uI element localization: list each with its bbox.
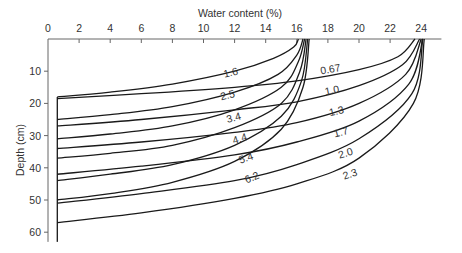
y-tick-label: 50 — [29, 194, 41, 206]
x-tick-label: 14 — [260, 22, 272, 34]
x-tick-label: 6 — [138, 22, 144, 34]
curve-1-6 — [57, 39, 298, 97]
x-tick-label: 12 — [229, 22, 241, 34]
y-tick-label: 40 — [29, 162, 41, 174]
curve-label: 2.3 — [341, 166, 359, 182]
y-tick-label: 20 — [29, 97, 41, 109]
curve-label: 1.3 — [328, 103, 345, 118]
curve-2-5 — [57, 39, 303, 120]
x-tick-label: 0 — [45, 22, 51, 34]
x-tick-label: 24 — [415, 22, 427, 34]
x-tick-label: 18 — [322, 22, 334, 34]
curve-label: 2.0 — [337, 145, 355, 161]
chart-svg: 024681012141618202224102030405060 1.62.5… — [0, 0, 462, 253]
y-tick-label: 10 — [29, 65, 41, 77]
x-tick-label: 22 — [384, 22, 396, 34]
x-tick-label: 8 — [169, 22, 175, 34]
x-tick-label: 10 — [198, 22, 210, 34]
curve-label: 1.0 — [323, 83, 340, 98]
curve-label: 2.5 — [219, 87, 236, 102]
curve-label: 1.6 — [222, 65, 239, 80]
y-tick-label: 30 — [29, 130, 41, 142]
curve-label: 6.2 — [243, 169, 261, 186]
x-tick-label: 20 — [353, 22, 365, 34]
curve-label: 3.4 — [225, 110, 242, 125]
x-tick-label: 2 — [76, 22, 82, 34]
x-tick-label: 4 — [107, 22, 113, 34]
y-tick-label: 60 — [29, 226, 41, 238]
x-axis-title: Water content (%) — [198, 7, 282, 19]
x-tick-label: 16 — [291, 22, 303, 34]
y-axis-title: Depth (cm) — [14, 124, 26, 176]
water-content-depth-chart: 024681012141618202224102030405060 1.62.5… — [0, 0, 462, 253]
